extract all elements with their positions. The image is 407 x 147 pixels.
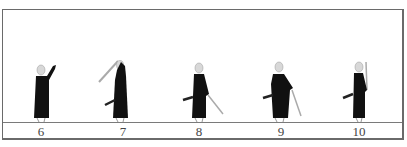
figure-frame-7 [93, 10, 153, 123]
figure-frame-8 [169, 10, 229, 123]
frame-number-6: 6 [21, 125, 61, 138]
swordsman-figure-icon [251, 10, 311, 123]
swordsman-figure-icon [329, 10, 389, 123]
swordsman-figure-icon [93, 10, 153, 123]
frame-number-7: 7 [103, 125, 143, 138]
figure-frame-10 [329, 10, 389, 123]
illustration-frame: 6 7 8 9 [2, 9, 404, 140]
swordsman-figure-icon [169, 10, 229, 123]
swordsman-figure-icon [11, 10, 71, 123]
figure-frame-9 [251, 10, 311, 123]
frame-number-10: 10 [339, 125, 379, 138]
figure-frame-6 [11, 10, 71, 123]
frame-number-8: 8 [179, 125, 219, 138]
frame-number-9: 9 [261, 125, 301, 138]
